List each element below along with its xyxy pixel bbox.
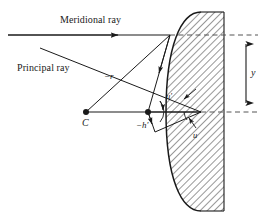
center-of-curvature-point: [83, 109, 89, 115]
radius-line: [86, 35, 170, 112]
center-of-curvature-label: C: [82, 118, 89, 128]
diagram-canvas: [0, 0, 275, 223]
image-height-label: −h′: [136, 121, 149, 130]
meridional-ray-label: Meridional ray: [60, 15, 121, 25]
optics-diagram-figure: Meridional ray Principal ray −r C −h′ u′…: [0, 0, 275, 223]
angle-u-label: u: [193, 131, 197, 140]
radius-label: −r: [104, 72, 114, 81]
ray-height-label: y: [251, 68, 255, 78]
angle-u-prime-label: u′: [166, 92, 172, 101]
image-point: [145, 109, 151, 115]
principal-ray-label: Principal ray: [17, 63, 70, 73]
